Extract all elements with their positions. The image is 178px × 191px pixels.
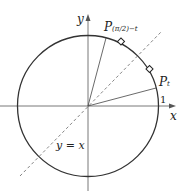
radius-to-pt	[88, 88, 156, 106]
point-t-subscript: t	[167, 80, 170, 88]
y-axis-label: y	[77, 13, 84, 25]
point-comp-label: P(π/2)−t	[104, 21, 138, 33]
tick-one-label: 1	[160, 95, 166, 105]
radius-to-p-comp	[88, 38, 106, 106]
diagram-canvas	[0, 0, 178, 191]
x-axis-label: x	[170, 110, 177, 122]
y-axis-arrow-icon	[86, 14, 91, 21]
point-t-label: Pt	[159, 76, 170, 88]
marker-diamond-upper	[117, 38, 124, 45]
unit-circle-diagram: y x 1 P(π/2)−t Pt y = x	[0, 0, 178, 191]
point-comp-subscript: (π/2)−t	[112, 25, 138, 33]
x-axis-arrow-icon	[169, 104, 176, 109]
line-label: y = x	[56, 140, 85, 151]
